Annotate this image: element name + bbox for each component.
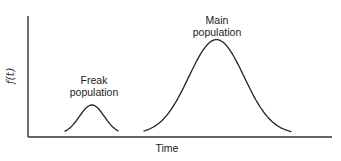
main-population-label: Main population — [188, 14, 246, 38]
main-population-curve — [144, 40, 292, 132]
freak-label-line2: population — [66, 86, 122, 98]
freak-population-curve — [65, 105, 119, 131]
x-axis-label: Time — [147, 142, 187, 154]
y-axis-label: f(t) — [3, 62, 17, 92]
y-axis-label-text: f(t) — [4, 61, 16, 91]
freak-label-line1: Freak — [66, 74, 122, 86]
chart-canvas — [0, 0, 341, 161]
main-label-line1: Main — [188, 14, 246, 26]
main-label-line2: population — [188, 26, 246, 38]
freak-population-label: Freak population — [66, 74, 122, 98]
